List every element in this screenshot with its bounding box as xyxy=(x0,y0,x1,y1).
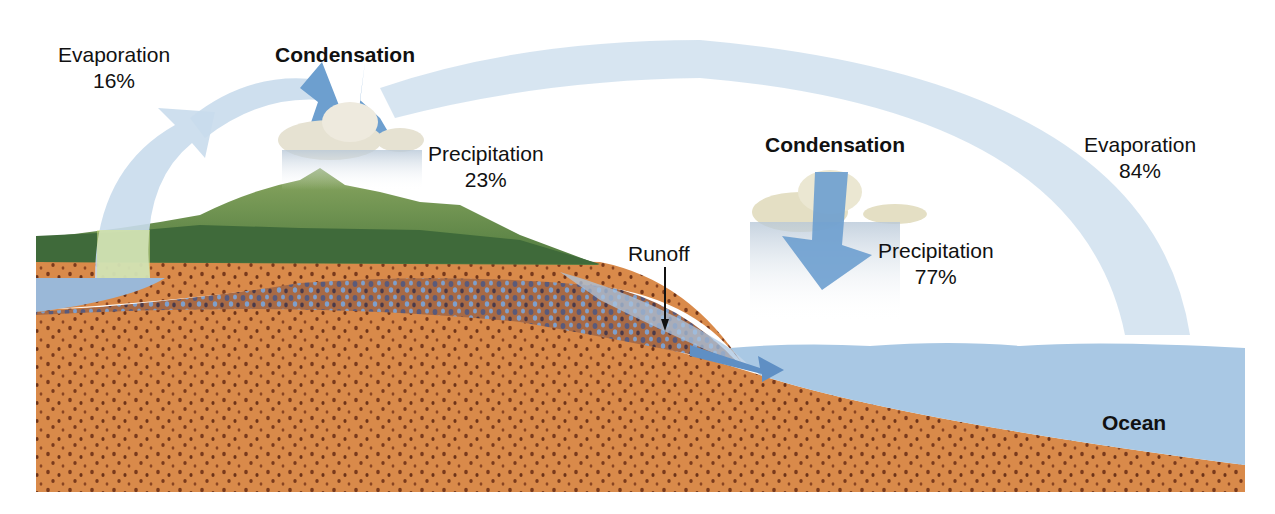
label-runoff: Runoff xyxy=(628,241,690,267)
water-cycle-diagram: Evaporation 16% Condensation Precipitati… xyxy=(0,0,1275,514)
value-precipitation-ocean: 77% xyxy=(878,264,994,290)
label-precipitation-ocean: Precipitation 77% xyxy=(878,238,994,290)
label-condensation-ocean: Condensation xyxy=(765,132,905,158)
label-precipitation-land: Precipitation 23% xyxy=(428,141,544,193)
runoff-pointer-icon xyxy=(660,267,670,332)
label-ocean: Ocean xyxy=(1102,410,1166,436)
label-evaporation-ocean: Evaporation 84% xyxy=(1084,132,1196,184)
value-evaporation-land: 16% xyxy=(58,68,170,94)
value-precipitation-land: 23% xyxy=(428,167,544,193)
label-condensation-land: Condensation xyxy=(275,42,415,68)
evap-glow xyxy=(97,230,150,278)
value-evaporation-ocean: 84% xyxy=(1084,158,1196,184)
label-evaporation-land: Evaporation 16% xyxy=(58,42,170,94)
